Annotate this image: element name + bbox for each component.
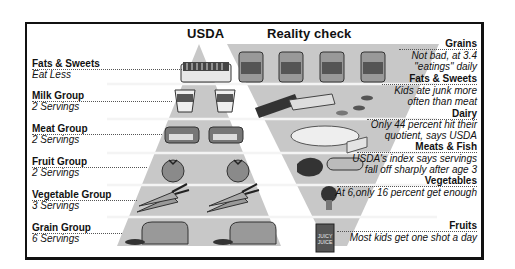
reality-group-dairy: Dairy xyxy=(452,108,477,119)
reality-group-grains: Grains xyxy=(445,38,477,49)
reality-group-vegetables: Vegetables xyxy=(425,175,477,186)
butter-icon xyxy=(181,62,231,82)
reality-note-vegetables: At 6,only 16 percent get enough xyxy=(335,187,477,198)
reality-group-meats-fish: Meats & Fish xyxy=(415,141,477,152)
reality-note-fats-sweets: Kids ate junk more often than meat xyxy=(394,85,477,107)
reality-note-grains: Not bad, at 3.4 "eatings" daily xyxy=(411,50,477,72)
svg-text:JUICE: JUICE xyxy=(318,239,333,245)
reality-check-title: Reality check xyxy=(267,26,351,41)
usda-title: USDA xyxy=(187,26,224,41)
reality-group-fats-sweets: Fats & Sweets xyxy=(409,73,477,84)
juice-box-icon: JUICY JUICE xyxy=(316,224,334,252)
reality-group-fruits: Fruits xyxy=(449,220,477,231)
diagram-frame: JUICY JUICE USDA Reality check Fats & Sw… xyxy=(25,22,484,260)
reality-note-fruits: Most kids get one shot a day xyxy=(350,232,477,243)
reality-note-dairy: Only 44 percent hit their quotient, says… xyxy=(371,119,477,141)
reality-note-meats-fish: USDA's index says servings fall off shar… xyxy=(352,153,477,175)
